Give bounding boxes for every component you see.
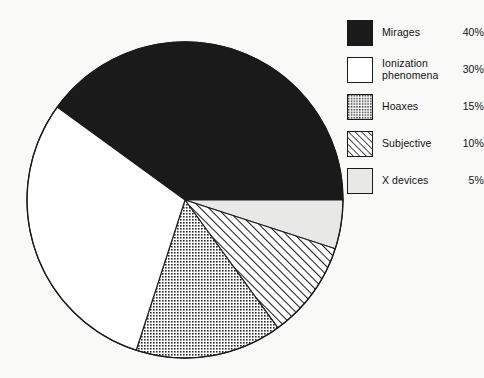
legend-value-ionization-phenomena: 30% — [463, 64, 484, 76]
pie-slices-group — [27, 42, 343, 358]
legend-value-x-devices: 5% — [469, 175, 484, 187]
white-swatch — [347, 57, 373, 83]
legend-label-ionization-phenomena: Ionization phenomena — [382, 58, 442, 82]
chart-legend: Mirages 40% Ionization phenomena 30% Hoa… — [347, 18, 484, 203]
solid-black-swatch — [347, 20, 373, 46]
legend-value-subjective: 10% — [463, 138, 484, 150]
legend-item-x-devices[interactable]: X devices 5% — [347, 166, 484, 196]
legend-label-subjective: Subjective — [382, 138, 435, 150]
legend-label-x-devices: X devices — [382, 175, 432, 187]
legend-item-hoaxes[interactable]: Hoaxes 15% — [347, 92, 484, 122]
pie-chart-figure: Mirages 40% Ionization phenomena 30% Hoa… — [0, 0, 484, 378]
legend-item-ionization-phenomena[interactable]: Ionization phenomena 30% — [347, 55, 484, 85]
legend-item-mirages[interactable]: Mirages 40% — [347, 18, 484, 48]
legend-value-hoaxes: 15% — [463, 101, 484, 113]
legend-label-hoaxes: Hoaxes — [382, 101, 422, 113]
legend-value-mirages: 40% — [463, 27, 484, 39]
light-gray-swatch — [347, 168, 373, 194]
diagonal-hatch-swatch — [347, 131, 373, 157]
legend-label-mirages: Mirages — [382, 27, 424, 39]
legend-item-subjective[interactable]: Subjective 10% — [347, 129, 484, 159]
checkered-gray-swatch — [347, 94, 373, 120]
